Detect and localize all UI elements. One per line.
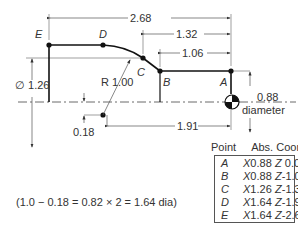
point-d-dot [100, 42, 105, 47]
point-c-dot [140, 55, 145, 60]
dim-overall-label: 2.68 [130, 12, 151, 24]
col-point-header: Point [211, 141, 236, 153]
offset-label: 0.18 [73, 126, 94, 138]
coordinate-table: A X0.88 Z 0.00 B X0.88 Z-1.06 C X1.26 Z-… [214, 155, 295, 223]
point-e-label: E [35, 28, 43, 40]
diameter-c-label: ∅ 1.26 [15, 79, 49, 91]
origin-target-icon [225, 95, 239, 109]
table-header: Point Abs. Coord. [211, 141, 298, 153]
dim-arc-center-label: 1.91 [177, 120, 198, 132]
diameter-a-label: 0.88 [257, 91, 278, 103]
point-a-dot [228, 68, 233, 73]
radius-label: R 1.00 [101, 76, 133, 88]
point-c-label: C [137, 66, 145, 78]
point-d-label: D [99, 28, 107, 40]
dim-c-to-a-label: 1.32 [176, 28, 197, 40]
point-a-label: A [219, 76, 227, 88]
col-coord-header: Abs. Coord. [251, 141, 298, 153]
dim-b-to-a-label: 1.06 [182, 47, 203, 59]
point-b-dot [157, 68, 162, 73]
point-b-label: B [163, 76, 170, 88]
formula-note: (1.0 − 0.18 = 0.82 × 2 = 1.64 dia) [16, 196, 177, 208]
point-e-dot [46, 42, 51, 47]
diameter-word-label: diameter [242, 104, 285, 116]
